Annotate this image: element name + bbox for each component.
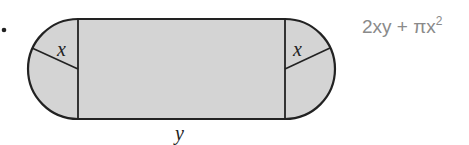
length-label: y: [173, 122, 184, 145]
right-radius-label: x: [292, 38, 302, 60]
answer-exponent: 2: [436, 14, 443, 28]
answer-expression: 2xy + πx2: [362, 14, 443, 37]
bullet-dot: [2, 28, 7, 33]
answer-main: 2xy + πx: [362, 16, 436, 37]
left-radius-label: x: [56, 38, 66, 60]
stadium-shape: [28, 19, 335, 119]
figure: x x y 2xy + πx2: [0, 0, 469, 145]
